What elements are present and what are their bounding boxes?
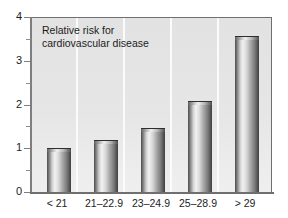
bar-21-22-9 [94, 140, 118, 192]
annotation-line-1: Relative risk for [42, 24, 149, 37]
y-tick-major [24, 61, 31, 62]
y-axis-label-4: 4 [2, 11, 22, 22]
bar-top-cap [188, 102, 212, 105]
y-axis-label-2: 2 [2, 99, 22, 110]
bar-top-cap [235, 37, 259, 40]
chart-annotation: Relative risk for cardiovascular disease [42, 24, 149, 49]
y-tick-minor [26, 83, 31, 84]
bar-top-cap [141, 129, 165, 132]
y-tick-minor [26, 39, 31, 40]
annotation-line-2: cardiovascular disease [42, 37, 149, 50]
y-tick-minor [26, 126, 31, 127]
bar-top-cap [94, 141, 118, 144]
bar-lt-21 [47, 148, 71, 192]
bar-25-28-9 [188, 101, 212, 192]
plot-area: Relative risk for cardiovascular disease [32, 17, 272, 192]
y-tick-minor [26, 170, 31, 171]
y-tick-major [24, 17, 31, 18]
bar-gt-29 [235, 36, 259, 192]
y-tick-major [24, 148, 31, 149]
x-axis-line [30, 192, 274, 194]
y-tick-major [24, 105, 31, 106]
bar-23-24-9 [141, 128, 165, 192]
category-gridline [217, 18, 219, 192]
bar-chart-figure: 4 3 2 1 0 Relative risk for cardiovascul [0, 0, 288, 218]
x-axis-label-gt-29: > 29 [217, 197, 273, 209]
y-axis-labels: 4 3 2 1 0 [0, 0, 22, 218]
y-axis-label-3: 3 [2, 55, 22, 66]
category-gridline [170, 18, 172, 192]
y-axis-label-0: 0 [2, 186, 22, 197]
y-axis-label-1: 1 [2, 142, 22, 153]
bar-top-cap [47, 149, 71, 152]
